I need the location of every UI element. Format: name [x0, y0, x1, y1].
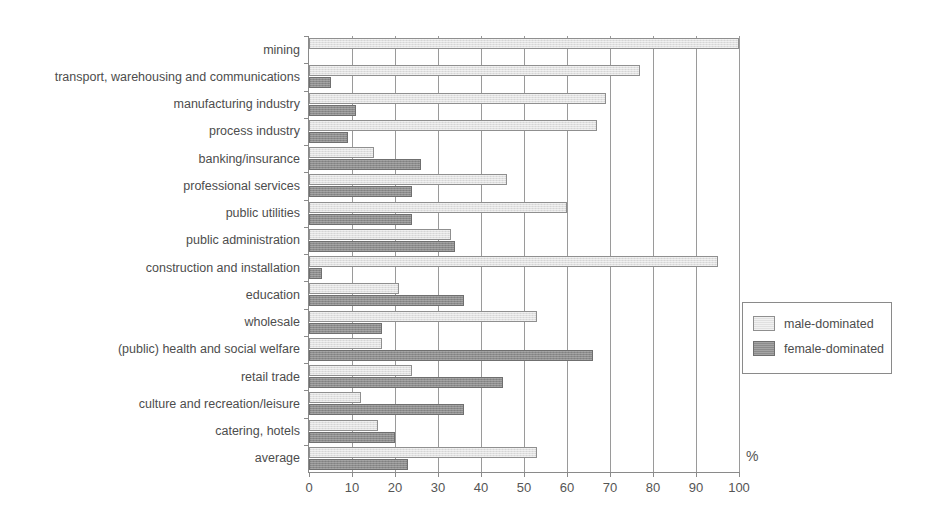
- category-label: average: [255, 451, 300, 465]
- bar-male-dominated: [309, 147, 374, 158]
- bar-female-dominated: [309, 459, 408, 470]
- bar-female-dominated: [309, 159, 421, 170]
- x-axis-tick: [567, 472, 568, 477]
- x-axis-tick: [481, 472, 482, 477]
- bar-male-dominated: [309, 120, 597, 131]
- bar-female-dominated: [309, 432, 395, 443]
- x-axis-tick: [352, 472, 353, 477]
- bar-male-dominated: [309, 365, 412, 376]
- x-axis-unit-label: %: [746, 448, 758, 464]
- category-label: transport, warehousing and communication…: [55, 70, 300, 84]
- category-label: construction and installation: [146, 261, 300, 275]
- bar-male-dominated: [309, 392, 361, 403]
- bar-female-dominated: [309, 323, 382, 334]
- legend-label-male: male-dominated: [784, 317, 874, 331]
- x-axis-tick-label: 50: [517, 480, 531, 495]
- x-axis-tick: [524, 472, 525, 477]
- y-axis-tick: [304, 390, 309, 391]
- x-axis-tick-label: 0: [305, 480, 312, 495]
- y-axis-tick: [304, 172, 309, 173]
- legend-label-female: female-dominated: [784, 342, 884, 356]
- x-axis-tick-label: 80: [646, 480, 660, 495]
- bar-female-dominated: [309, 377, 503, 388]
- x-axis-tick: [309, 472, 310, 477]
- y-axis-tick: [304, 281, 309, 282]
- category-label: public administration: [186, 233, 300, 247]
- bar-female-dominated: [309, 404, 464, 415]
- bar-male-dominated: [309, 229, 451, 240]
- gridline: [739, 36, 740, 472]
- legend-item-female-dominated: female-dominated: [753, 336, 881, 361]
- y-axis-category-labels: miningtransport, warehousing and communi…: [0, 36, 300, 472]
- x-axis-tick: [438, 472, 439, 477]
- x-axis-tick-label: 10: [345, 480, 359, 495]
- category-label: process industry: [209, 124, 300, 138]
- bar-male-dominated: [309, 93, 606, 104]
- x-axis-tick-label: 30: [431, 480, 445, 495]
- bar-male-dominated: [309, 447, 537, 458]
- gridline: [653, 36, 654, 472]
- y-axis-tick: [304, 254, 309, 255]
- bar-female-dominated: [309, 105, 356, 116]
- y-axis-tick: [304, 145, 309, 146]
- category-label: wholesale: [244, 315, 300, 329]
- y-axis-tick: [304, 36, 309, 37]
- bar-female-dominated: [309, 241, 455, 252]
- gridline: [696, 36, 697, 472]
- legend-swatch-male-icon: [753, 316, 775, 331]
- bar-male-dominated: [309, 311, 537, 322]
- chart-legend: male-dominated female-dominated: [742, 302, 892, 374]
- y-axis-tick: [304, 63, 309, 64]
- x-axis-tick-label: 70: [603, 480, 617, 495]
- bar-female-dominated: [309, 214, 412, 225]
- category-label: public utilities: [226, 206, 300, 220]
- bar-male-dominated: [309, 38, 739, 49]
- bar-male-dominated: [309, 256, 718, 267]
- x-axis-tick: [739, 472, 740, 477]
- y-axis-tick: [304, 118, 309, 119]
- x-axis-tick: [395, 472, 396, 477]
- bar-female-dominated: [309, 186, 412, 197]
- x-axis-tick-label: 100: [728, 480, 750, 495]
- category-label: manufacturing industry: [174, 97, 300, 111]
- x-axis-tick: [653, 472, 654, 477]
- bar-male-dominated: [309, 202, 567, 213]
- x-axis-tick-label: 40: [474, 480, 488, 495]
- category-label: catering, hotels: [215, 424, 300, 438]
- bar-male-dominated: [309, 420, 378, 431]
- x-axis-tick: [610, 472, 611, 477]
- gridline: [610, 36, 611, 472]
- category-label: banking/insurance: [199, 152, 300, 166]
- legend-item-male-dominated: male-dominated: [753, 311, 881, 336]
- bar-female-dominated: [309, 132, 348, 143]
- chart-figure: miningtransport, warehousing and communi…: [0, 0, 932, 525]
- bar-female-dominated: [309, 350, 593, 361]
- category-label: (public) health and social welfare: [118, 342, 300, 356]
- category-label: professional services: [183, 179, 300, 193]
- bar-male-dominated: [309, 65, 640, 76]
- y-axis-tick: [304, 363, 309, 364]
- y-axis-tick: [304, 445, 309, 446]
- bar-male-dominated: [309, 174, 507, 185]
- category-label: retail trade: [241, 370, 300, 384]
- x-axis-tick-label: 20: [388, 480, 402, 495]
- bar-male-dominated: [309, 283, 399, 294]
- bar-female-dominated: [309, 77, 331, 88]
- y-axis-tick: [304, 227, 309, 228]
- x-axis-tick: [696, 472, 697, 477]
- plot-area: 0102030405060708090100: [308, 36, 739, 472]
- legend-swatch-female-icon: [753, 341, 775, 356]
- x-axis-tick-label: 60: [560, 480, 574, 495]
- bar-male-dominated: [309, 338, 382, 349]
- category-label: mining: [263, 43, 300, 57]
- x-axis-tick-label: 90: [689, 480, 703, 495]
- y-axis-tick: [304, 336, 309, 337]
- category-label: culture and recreation/leisure: [139, 397, 300, 411]
- bar-female-dominated: [309, 295, 464, 306]
- category-label: education: [246, 288, 300, 302]
- bar-female-dominated: [309, 268, 322, 279]
